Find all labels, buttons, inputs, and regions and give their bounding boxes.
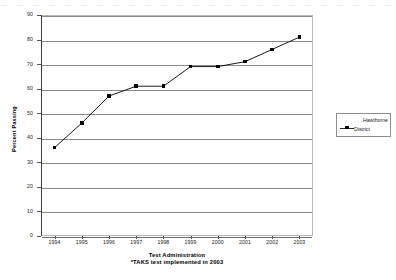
y-tick-label-70: 70 [5,62,33,67]
x-tick-label-2001: 2001 [230,240,260,245]
x-tick-label-2002: 2002 [257,240,287,245]
x-tick-label-1997: 1997 [121,240,151,245]
y-tick-label-40: 40 [5,135,33,140]
x-tick-label-2000: 2000 [203,240,233,245]
data-point-2002 [270,48,274,52]
data-point-2000 [216,65,220,69]
x-axis-note: *TAKS test implemented in 2003 [41,259,313,266]
y-tick-label-0: 0 [5,233,33,238]
x-tick-label-1995: 1995 [67,240,97,245]
y-tick-mark-0 [37,236,41,237]
y-axis-title: Percent Passing [11,89,17,169]
y-tick-label-50: 50 [5,111,33,116]
x-tick-label-2003: 2003 [284,240,314,245]
x-tick-label-1999: 1999 [176,240,206,245]
y-tick-label-80: 80 [5,37,33,42]
data-point-1997 [134,84,138,88]
data-point-2001 [243,60,247,64]
y-tick-label-60: 60 [5,86,33,91]
series-layer [41,15,313,236]
x-tick-label-1998: 1998 [148,240,178,245]
data-point-1998 [162,84,166,88]
data-point-1996 [107,94,111,98]
x-axis-title: Test Administration [41,252,313,259]
legend-label-line1: Hawthorne [337,117,388,123]
data-point-1995 [80,121,84,125]
data-point-1999 [189,65,193,69]
x-tick-label-1994: 1994 [40,240,70,245]
x-tick-label-1996: 1996 [94,240,124,245]
legend: Hawthorne District [336,113,391,137]
legend-label-line2: District [354,126,388,132]
line-chart: 0102030405060708090 19941995199619971998… [0,0,396,280]
data-point-1994 [53,146,57,150]
y-tick-label-10: 10 [5,209,33,214]
y-tick-label-20: 20 [5,184,33,189]
legend-marker-icon [345,126,349,130]
y-tick-label-30: 30 [5,160,33,165]
data-point-2003 [298,35,302,39]
y-tick-label-90: 90 [5,12,33,17]
